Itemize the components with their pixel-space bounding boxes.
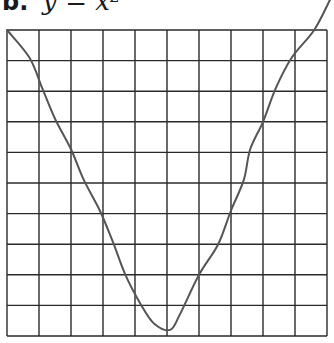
hand-drawn-curve: [7, 0, 330, 330]
graph-grid-plot: [0, 0, 334, 343]
grid-lines: [7, 30, 327, 336]
